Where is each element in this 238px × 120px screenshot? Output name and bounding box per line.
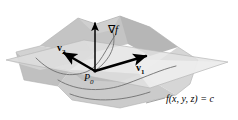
tangent-vector-2-subscript: 2 (62, 48, 66, 56)
gradient-vector-label: ∇f (108, 24, 118, 35)
level-surface-tangent-plane-figure: ∇f v2 v1 P0 f(x, y, z) = c (0, 0, 238, 120)
point-p0-label: P0 (84, 73, 94, 86)
tangent-vector-1-subscript: 1 (141, 68, 145, 76)
tangent-vector-2-label: v2 (57, 43, 66, 56)
gradient-function-letter: f (115, 23, 118, 35)
point-p0-dot (93, 69, 96, 72)
level-surface-equation-label: f(x, y, z) = c (166, 94, 214, 104)
point-p0-subscript: 0 (90, 78, 94, 86)
nabla-icon: ∇ (108, 23, 115, 35)
tangent-vector-1-label: v1 (136, 63, 145, 76)
